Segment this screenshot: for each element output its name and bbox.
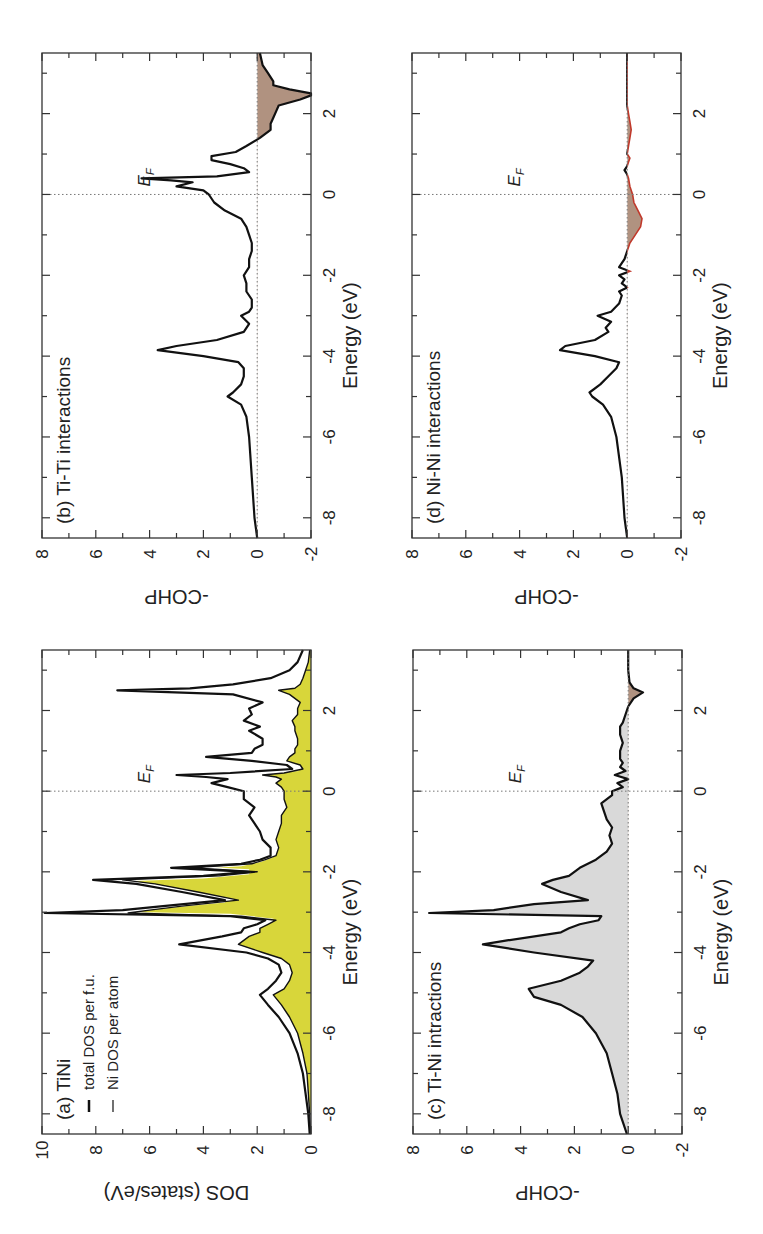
energy-axis-label: Energy (eV) (710, 879, 732, 986)
fermi-level-label: EF (505, 167, 526, 186)
value-tick-label: 4 (511, 549, 530, 558)
value-tick-label: 2 (564, 549, 583, 558)
energy-tick-label: -8 (690, 510, 709, 525)
value-tick-label: 8 (403, 549, 422, 558)
energy-tick-label: 0 (691, 786, 710, 795)
value-tick-label: 0 (619, 1145, 638, 1154)
value-tick-label: -2 (672, 546, 691, 561)
energy-axis-label: Energy (eV) (709, 282, 731, 389)
energy-tick-label: -6 (320, 429, 339, 444)
panel-b-ti-ti-cohp: EF-8-6-4-202Energy (eV)-202468-COHP(b) T… (33, 53, 361, 608)
energy-tick-label: 2 (320, 109, 339, 118)
value-axis-label: -COHP (514, 586, 578, 608)
bonding-fill (429, 650, 643, 1134)
ni-dos-fill (123, 650, 311, 1134)
energy-tick-label: -6 (320, 1026, 339, 1041)
energy-tick-label: -4 (691, 945, 710, 960)
energy-axis-label: Energy (eV) (339, 879, 361, 986)
legend-label: total DOS per f.u. (80, 974, 97, 1090)
energy-tick-label: -6 (691, 1026, 710, 1041)
value-tick-label: 2 (194, 549, 213, 558)
panel-d-ni-ni-cohp: EF-8-6-4-202Energy (eV)-202468-COHP(d) N… (403, 53, 731, 608)
panel-title: (d) Ni-Ni interactions (423, 351, 444, 524)
value-tick-label: 2 (565, 1145, 584, 1154)
value-tick-label: -2 (302, 546, 321, 561)
energy-tick-label: -2 (690, 268, 709, 283)
panel-title: (c) Ti-Ni intractions (424, 962, 445, 1120)
value-tick-label: 4 (141, 549, 160, 558)
energy-tick-label: 0 (320, 786, 339, 795)
value-tick-label: 6 (458, 1145, 477, 1154)
energy-tick-label: 0 (320, 190, 339, 199)
fermi-level-label: EF (135, 764, 156, 783)
value-axis-label: DOS (states/eV) (104, 1182, 250, 1204)
energy-tick-label: 0 (690, 190, 709, 199)
value-axis-label: -COHP (515, 1182, 579, 1204)
energy-tick-label: -8 (691, 1106, 710, 1121)
value-tick-label: 4 (512, 1145, 531, 1154)
energy-tick-label: 2 (691, 706, 710, 715)
energy-tick-label: 2 (320, 706, 339, 715)
energy-tick-label: -4 (320, 945, 339, 960)
energy-tick-label: -2 (320, 268, 339, 283)
energy-tick-label: -4 (690, 349, 709, 364)
value-tick-label: -2 (673, 1142, 692, 1157)
figure-canvas: EF-8-6-4-202Energy (eV)-202468-COHP(b) T… (0, 0, 763, 1234)
value-tick-label: 0 (618, 549, 637, 558)
energy-tick-label: -8 (320, 510, 339, 525)
plot-frame (413, 650, 682, 1134)
legend-label: Ni DOS per atom (104, 976, 121, 1090)
value-tick-label: 8 (404, 1145, 423, 1154)
panel-title: (b) Ti-Ti interactions (53, 357, 74, 524)
value-tick-label: 2 (248, 1145, 267, 1154)
energy-tick-label: -6 (690, 429, 709, 444)
antibonding-fill (560, 53, 642, 538)
value-tick-label: 8 (87, 1145, 106, 1154)
value-tick-label: 8 (33, 549, 52, 558)
cohp-line (142, 53, 312, 538)
energy-tick-label: -8 (320, 1106, 339, 1121)
energy-tick-label: -4 (320, 349, 339, 364)
value-tick-label: 4 (194, 1145, 213, 1154)
value-axis-label: -COHP (144, 586, 208, 608)
value-tick-label: 0 (248, 549, 267, 558)
plot-frame (412, 53, 681, 538)
value-tick-label: 6 (457, 549, 476, 558)
panel-c-ti-ni-cohp: EF-8-6-4-202Energy (eV)-202468-COHP(c) T… (404, 650, 732, 1204)
fermi-level-label: EF (135, 167, 156, 186)
fermi-level-label: EF (506, 764, 527, 783)
energy-tick-label: 2 (690, 109, 709, 118)
value-tick-label: 6 (87, 549, 106, 558)
energy-tick-label: -2 (320, 864, 339, 879)
value-tick-label: 6 (141, 1145, 160, 1154)
panel-a-tini-dos: EF-8-6-4-202Energy (eV)0246810DOS (state… (33, 650, 361, 1204)
value-tick-label: 10 (33, 1141, 52, 1160)
panel-title: (a) TiNi (53, 1059, 74, 1120)
energy-axis-label: Energy (eV) (339, 282, 361, 389)
antibonding-fill (142, 53, 312, 538)
energy-tick-label: -2 (691, 864, 710, 879)
value-tick-label: 0 (302, 1145, 321, 1154)
